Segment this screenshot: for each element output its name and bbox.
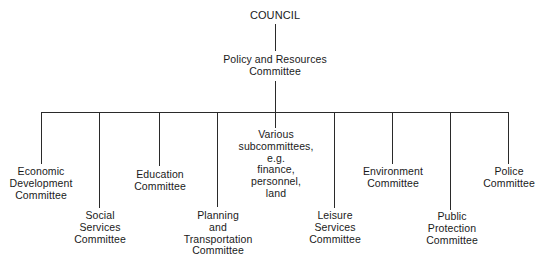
connector-social xyxy=(99,112,100,208)
node-public-protection: Public Protection Committee xyxy=(426,211,478,246)
node-label-line: Committee xyxy=(74,234,126,246)
node-label-line: and xyxy=(184,222,253,234)
node-various-subcommittees: Various subcommittees, e.g. finance, per… xyxy=(239,129,314,200)
node-label-line: Services xyxy=(74,222,126,234)
connector-policy-to-bus xyxy=(275,81,276,128)
node-council: COUNCIL xyxy=(250,10,300,22)
connector-leisure xyxy=(334,112,335,208)
horizontal-bus-line xyxy=(41,112,509,113)
node-policy-and-resources: Policy and Resources Committee xyxy=(223,54,327,78)
node-environment: Environment Committee xyxy=(363,166,423,190)
node-label-line: Services xyxy=(309,222,361,234)
node-label-line: Committee xyxy=(483,178,535,190)
connector-education xyxy=(159,112,160,166)
node-label-line: Development xyxy=(10,178,73,190)
node-label-line: Committee xyxy=(363,178,423,190)
node-leisure-services: Leisure Services Committee xyxy=(309,210,361,245)
node-label-line: Committee xyxy=(426,235,478,247)
node-planning-transportation: Planning and Transportation Committee xyxy=(184,210,253,257)
node-label-line: Committee xyxy=(309,234,361,246)
node-label-line: subcommittees, xyxy=(239,141,314,153)
node-label-line: land xyxy=(239,188,314,200)
node-economic-development: Economic Development Committee xyxy=(10,166,73,201)
connector-environment xyxy=(392,112,393,164)
connector-council-to-policy xyxy=(275,24,276,51)
node-label-line: Committee xyxy=(10,190,73,202)
node-education: Education Committee xyxy=(134,169,186,193)
node-label-line: Committee xyxy=(134,181,186,193)
connector-police xyxy=(508,112,509,164)
node-label-line: Protection xyxy=(426,223,478,235)
node-police: Police Committee xyxy=(483,166,535,190)
node-social-services: Social Services Committee xyxy=(74,210,126,245)
node-label-line: Committee xyxy=(223,66,327,78)
connector-public-protection xyxy=(450,112,451,210)
connector-economic xyxy=(41,112,42,164)
node-label-line: Committee xyxy=(184,245,253,257)
node-label-line: COUNCIL xyxy=(250,10,300,22)
connector-planning xyxy=(217,112,218,207)
